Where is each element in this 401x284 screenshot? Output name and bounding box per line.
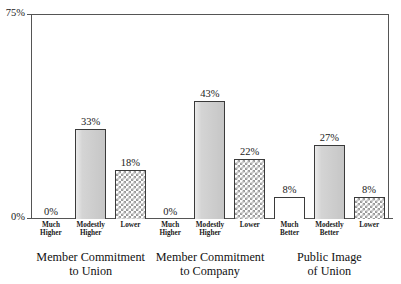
bar-value-label: 43% <box>200 88 219 99</box>
group-caption: Member Commitmentto Union <box>31 250 150 278</box>
category-tick-label: MuchHigher <box>31 221 71 238</box>
category-tick-line1: Much <box>270 221 310 229</box>
bar-slot: 43% <box>194 14 225 219</box>
category-tick-line1: Lower <box>111 221 151 229</box>
bar-value-label: 22% <box>240 146 259 157</box>
category-tick-label: Lower <box>230 221 270 238</box>
bar-value-label: 0% <box>163 206 177 217</box>
category-tick-line1: Modestly <box>190 221 230 229</box>
group-caption-line1: Member Commitment <box>150 250 269 264</box>
category-tick-label: ModestlyBetter <box>309 221 349 238</box>
category-tick-label: Lower <box>111 221 151 238</box>
category-tick-label: ModestlyHigher <box>190 221 230 238</box>
category-tick-row: MuchBetterModestlyBetterLower <box>270 221 389 238</box>
bar <box>274 197 305 219</box>
group-caption: Member Commitmentto Company <box>150 250 269 278</box>
category-tick-line1: Modestly <box>71 221 111 229</box>
bar-group: 0%43%22% <box>150 14 269 219</box>
bar <box>115 170 146 219</box>
category-tick-line1: Lower <box>349 221 389 229</box>
bar-group-bars: 0%43%22% <box>150 14 269 219</box>
category-tick-line2: Higher <box>150 229 190 237</box>
group-caption-line2: to Union <box>31 264 150 278</box>
category-tick-label: MuchHigher <box>150 221 190 238</box>
bar <box>354 197 385 219</box>
category-tick-row: MuchHigherModestlyHigherLower <box>31 221 150 238</box>
group-caption-line1: Public Image <box>270 250 389 264</box>
category-tick-group: MuchBetterModestlyBetterLower <box>270 221 389 241</box>
bar <box>234 159 265 219</box>
category-tick-line1: Much <box>150 221 190 229</box>
category-tick-line2: Higher <box>71 229 111 237</box>
group-caption-line2: to Company <box>150 264 269 278</box>
group-captions-layer: Member Commitmentto UnionMember Commitme… <box>31 250 389 282</box>
bar-slot: 0% <box>35 14 66 219</box>
bar-group: 8%27%8% <box>270 14 389 219</box>
bar-value-label: 0% <box>44 206 58 217</box>
bar-value-label: 27% <box>320 132 339 143</box>
bar-group-bars: 8%27%8% <box>270 14 389 219</box>
y-axis-label-min: 0% <box>0 211 25 222</box>
bar-slot: 8% <box>274 14 305 219</box>
category-tick-group: MuchHigherModestlyHigherLower <box>150 221 269 241</box>
category-tick-line2: Better <box>309 229 349 237</box>
y-axis-label-max: 75% <box>0 7 25 18</box>
category-tick-label: MuchBetter <box>270 221 310 238</box>
bar-slot: 0% <box>155 14 186 219</box>
bar-value-label: 33% <box>81 116 100 127</box>
category-tick-line2: Higher <box>31 229 71 237</box>
category-tick-line2: Better <box>270 229 310 237</box>
category-tick-row: MuchHigherModestlyHigherLower <box>150 221 269 238</box>
bar <box>194 101 225 219</box>
bar-group-bars: 0%33%18% <box>31 14 150 219</box>
bar-slot: 18% <box>115 14 146 219</box>
bar <box>75 129 106 219</box>
category-tick-line2: Higher <box>190 229 230 237</box>
category-tick-label: ModestlyHigher <box>71 221 111 238</box>
bar <box>314 145 345 219</box>
bar-chart: 75% 0% 0%33%18%0%43%22%8%27%8% MuchHighe… <box>0 0 401 284</box>
category-tick-group: MuchHigherModestlyHigherLower <box>31 221 150 241</box>
category-tick-labels-layer: MuchHigherModestlyHigherLowerMuchHigherM… <box>31 221 389 241</box>
bar-group: 0%33%18% <box>31 14 150 219</box>
group-caption: Public Imageof Union <box>270 250 389 278</box>
bar-slot: 33% <box>75 14 106 219</box>
category-tick-line1: Lower <box>230 221 270 229</box>
bar-slot: 27% <box>314 14 345 219</box>
group-caption-line2: of Union <box>270 264 389 278</box>
category-tick-line1: Modestly <box>309 221 349 229</box>
bar-value-label: 18% <box>121 157 140 168</box>
category-tick-label: Lower <box>349 221 389 238</box>
bar-groups-layer: 0%33%18%0%43%22%8%27%8% <box>31 14 389 219</box>
category-tick-line1: Much <box>31 221 71 229</box>
bar-slot: 8% <box>354 14 385 219</box>
group-caption-line1: Member Commitment <box>31 250 150 264</box>
bar-slot: 22% <box>234 14 265 219</box>
bar-value-label: 8% <box>283 184 297 195</box>
bar-value-label: 8% <box>362 184 376 195</box>
